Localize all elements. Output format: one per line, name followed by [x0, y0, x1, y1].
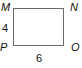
vertex-label-p: P [0, 42, 7, 53]
rectangle-mnop [13, 8, 64, 46]
vertex-label-n: N [70, 2, 78, 13]
side-length-bottom: 6 [36, 53, 42, 64]
side-length-left: 4 [2, 23, 8, 34]
vertex-label-m: M [1, 2, 10, 13]
vertex-label-o: O [71, 42, 80, 53]
